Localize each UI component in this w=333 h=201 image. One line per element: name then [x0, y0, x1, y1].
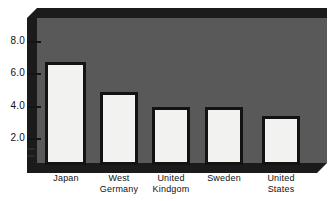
bar-japan: [45, 62, 86, 165]
bars-layer: [0, 0, 333, 201]
x-axis-label-japan-line1: Japan: [36, 173, 96, 184]
x-axis-label-united-states-line2: States: [251, 184, 311, 195]
bar-sweden: [205, 107, 243, 165]
x-axis-label-west-germany-line2: Germany: [89, 184, 149, 195]
x-axis-label-united-kingdom-line2: Kindgom: [141, 184, 201, 195]
bar-united-kingdom: [152, 107, 190, 165]
x-axis-label-west-germany: West Germany: [89, 173, 149, 195]
x-axis-label-west-germany-line1: West: [89, 173, 149, 184]
bar-west-germany: [100, 92, 138, 165]
x-axis-label-united-kingdom-line1: United: [141, 173, 201, 184]
x-axis-label-japan: Japan: [36, 173, 96, 184]
bar-chart: 8.0 6.0 4.0 2.0 Japan West Germany Unite…: [0, 0, 333, 201]
x-axis-label-united-states: United States: [251, 173, 311, 195]
x-axis-labels: Japan West Germany United Kindgom Sweden…: [0, 173, 333, 201]
x-axis-label-sweden-line1: Sweden: [194, 173, 254, 184]
x-axis-label-united-states-line1: United: [251, 173, 311, 184]
x-axis-label-sweden: Sweden: [194, 173, 254, 184]
x-axis-label-united-kingdom: United Kindgom: [141, 173, 201, 195]
bar-united-states: [262, 116, 300, 165]
